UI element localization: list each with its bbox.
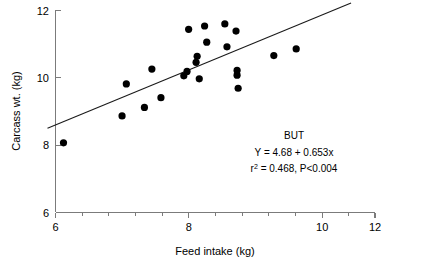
x-tick-label-8: 8 <box>186 221 192 233</box>
data-point <box>293 45 300 52</box>
data-point <box>232 27 239 34</box>
data-point <box>141 104 148 111</box>
data-point <box>270 52 277 59</box>
data-point <box>60 139 67 146</box>
data-point <box>123 80 130 87</box>
data-point <box>183 68 190 75</box>
annotation-group-label: BUT <box>284 130 304 141</box>
annotation-stats-suffix: = 0.468, P<0.004 <box>258 163 338 174</box>
y-axis-ticks <box>56 11 62 213</box>
data-point <box>157 94 164 101</box>
x-tick-label-10: 10 <box>316 221 328 233</box>
y-tick-label-8: 8 <box>43 139 49 151</box>
scatter-plot-figure: 12 10 8 6 6 8 10 12 Feed intake (kg) Car… <box>0 0 425 264</box>
data-point <box>203 39 210 46</box>
annotation-equation: Y = 4.68 + 0.653x <box>255 147 334 158</box>
y-tick-label-12: 12 <box>37 5 49 17</box>
data-point <box>233 72 240 79</box>
data-point <box>221 20 228 27</box>
data-point <box>201 22 208 29</box>
data-point <box>118 112 125 119</box>
x-axis-ticks <box>56 213 376 219</box>
y-tick-label-10: 10 <box>37 72 49 84</box>
data-point <box>223 43 230 50</box>
chart-canvas: 12 10 8 6 6 8 10 12 Feed intake (kg) Car… <box>0 0 425 264</box>
data-point <box>192 59 199 66</box>
data-point <box>235 85 242 92</box>
x-axis-title: Feed intake (kg) <box>175 245 254 257</box>
data-point <box>196 75 203 82</box>
data-point <box>185 26 192 33</box>
x-tick-label-6: 6 <box>52 221 58 233</box>
data-point <box>148 65 155 72</box>
data-point <box>194 53 201 60</box>
annotation-stats: r2 = 0.468, P<0.004 <box>251 163 338 174</box>
y-axis-title: Carcass wt. (kg) <box>10 71 22 150</box>
x-tick-label-12: 12 <box>369 221 381 233</box>
regression-line <box>48 3 352 128</box>
y-tick-label-6: 6 <box>43 207 49 219</box>
